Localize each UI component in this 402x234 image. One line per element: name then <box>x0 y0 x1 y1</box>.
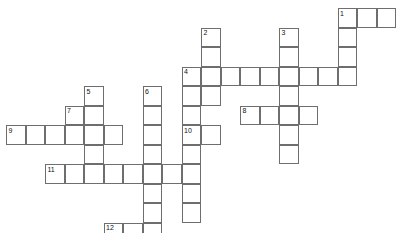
crossword-cell[interactable] <box>123 164 143 184</box>
crossword-clue-number-7: 7 <box>67 107 71 115</box>
crossword-clue-number-1: 1 <box>340 10 344 18</box>
crossword-cell[interactable] <box>201 67 221 87</box>
crossword-cell[interactable]: 4 <box>182 67 202 87</box>
crossword-clue-number-2: 2 <box>204 29 208 37</box>
crossword-cell[interactable]: 12 <box>104 223 124 234</box>
crossword-cell[interactable] <box>279 106 299 126</box>
crossword-cell[interactable] <box>84 106 104 126</box>
crossword-cell[interactable] <box>377 8 397 28</box>
crossword-cell[interactable] <box>143 106 163 126</box>
crossword-cell[interactable] <box>338 28 358 48</box>
crossword-cell[interactable] <box>338 47 358 67</box>
crossword-cell[interactable] <box>162 164 182 184</box>
crossword-cell[interactable] <box>123 223 143 234</box>
crossword-cell[interactable] <box>182 86 202 106</box>
crossword-puzzle-grid[interactable]: 123456789101112 <box>0 0 402 233</box>
crossword-cell[interactable]: 8 <box>240 106 260 126</box>
crossword-clue-number-11: 11 <box>48 166 55 174</box>
crossword-clue-number-10: 10 <box>184 127 192 135</box>
crossword-cell[interactable]: 3 <box>279 28 299 48</box>
crossword-cell[interactable]: 1 <box>338 8 358 28</box>
crossword-cell[interactable] <box>84 145 104 165</box>
crossword-cell[interactable] <box>279 125 299 145</box>
crossword-cell[interactable] <box>84 125 104 145</box>
crossword-cell[interactable] <box>299 67 319 87</box>
crossword-cell[interactable] <box>279 67 299 87</box>
crossword-cell[interactable] <box>45 125 65 145</box>
crossword-cell[interactable] <box>104 164 124 184</box>
crossword-cell[interactable] <box>201 86 221 106</box>
crossword-cell[interactable] <box>221 67 241 87</box>
crossword-cell[interactable] <box>26 125 46 145</box>
crossword-cell[interactable] <box>182 184 202 204</box>
crossword-cell[interactable] <box>143 203 163 223</box>
crossword-cell[interactable] <box>201 125 221 145</box>
crossword-cell[interactable] <box>279 86 299 106</box>
crossword-cell[interactable] <box>299 106 319 126</box>
crossword-cell[interactable] <box>143 145 163 165</box>
crossword-cell[interactable] <box>182 145 202 165</box>
crossword-cell[interactable] <box>84 164 104 184</box>
crossword-cell[interactable] <box>260 106 280 126</box>
crossword-cell[interactable] <box>65 125 85 145</box>
crossword-cell[interactable]: 7 <box>65 106 85 126</box>
crossword-cell[interactable]: 2 <box>201 28 221 48</box>
crossword-cell[interactable] <box>279 145 299 165</box>
crossword-cell[interactable]: 10 <box>182 125 202 145</box>
crossword-cell[interactable]: 9 <box>6 125 26 145</box>
crossword-cell[interactable] <box>182 106 202 126</box>
crossword-cell[interactable] <box>65 164 85 184</box>
crossword-cell[interactable] <box>182 164 202 184</box>
crossword-clue-number-12: 12 <box>106 224 114 232</box>
crossword-clue-number-4: 4 <box>184 68 188 76</box>
crossword-clue-number-3: 3 <box>282 29 286 37</box>
crossword-cell[interactable] <box>143 223 163 234</box>
crossword-cell[interactable] <box>143 125 163 145</box>
crossword-cell[interactable] <box>201 47 221 67</box>
crossword-cell[interactable] <box>143 184 163 204</box>
crossword-cell[interactable] <box>260 67 280 87</box>
crossword-cell[interactable] <box>104 125 124 145</box>
crossword-clue-number-5: 5 <box>87 88 91 96</box>
crossword-clue-number-8: 8 <box>243 107 247 115</box>
crossword-clue-number-6: 6 <box>145 88 149 96</box>
crossword-cell[interactable] <box>240 67 260 87</box>
crossword-cell[interactable] <box>338 67 358 87</box>
crossword-cell[interactable]: 6 <box>143 86 163 106</box>
crossword-cell[interactable] <box>143 164 163 184</box>
crossword-cell[interactable] <box>318 67 338 87</box>
crossword-cell[interactable]: 11 <box>45 164 65 184</box>
crossword-cell[interactable] <box>182 203 202 223</box>
crossword-clue-number-9: 9 <box>9 127 13 135</box>
crossword-cell[interactable] <box>357 8 377 28</box>
crossword-cell[interactable] <box>279 47 299 67</box>
crossword-cell[interactable]: 5 <box>84 86 104 106</box>
